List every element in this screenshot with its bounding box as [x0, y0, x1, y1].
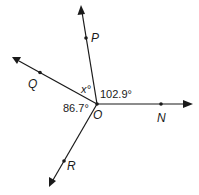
- label-q: Q: [28, 77, 37, 91]
- angle-label-qor: 86.7°: [63, 102, 89, 114]
- point-r: [62, 159, 66, 163]
- point-n: [159, 102, 163, 106]
- point-q: [38, 71, 42, 75]
- angle-label-x: x°: [80, 83, 92, 95]
- ray-on: [97, 100, 193, 108]
- angle-label-pon: 102.9°: [100, 88, 132, 100]
- angle-diagram: P Q N R O x° 102.9° 86.7°: [0, 0, 199, 195]
- arrowhead-icon: [78, 5, 86, 15]
- arrowhead-icon: [12, 57, 21, 64]
- ray-or: [49, 104, 97, 187]
- label-p: P: [91, 31, 99, 45]
- point-p: [84, 36, 88, 40]
- vertex-o: [95, 102, 99, 106]
- ray-oq: [12, 57, 97, 104]
- label-n: N: [157, 111, 166, 125]
- arrowhead-icon: [183, 100, 193, 108]
- label-o: O: [93, 108, 102, 122]
- arrowhead-icon: [49, 177, 56, 187]
- label-r: R: [67, 159, 76, 173]
